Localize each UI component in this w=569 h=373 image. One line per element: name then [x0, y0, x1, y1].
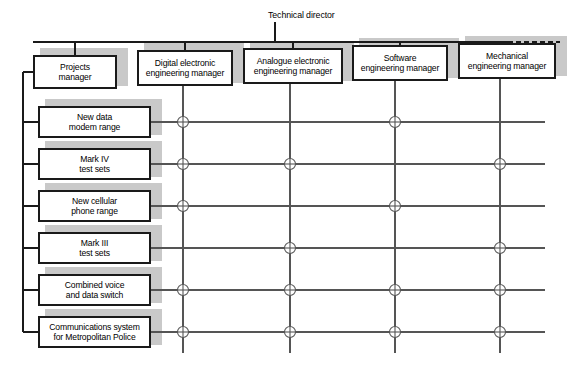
matrix-link-node[interactable] — [285, 327, 296, 338]
matrix-link-node[interactable] — [390, 201, 401, 212]
matrix-link-node[interactable] — [495, 327, 506, 338]
project-box-combined-voice-and-data-switch[interactable]: Combined voiceand data switch — [38, 274, 151, 306]
manager-box-label-line: engineering manager — [361, 63, 439, 73]
project-box-label-line: and data switch — [66, 290, 123, 300]
manager-box-label-line: Software — [384, 53, 417, 63]
manager-box-label-line: Digital electronic — [155, 58, 215, 68]
manager-box-label-line: manager — [59, 72, 92, 82]
project-box-label-line: New data — [77, 112, 112, 122]
project-box-communications-system-for-metropolitan-police[interactable]: Communications systemfor Metropolitan Po… — [38, 316, 151, 348]
project-box-mark-iii-test-sets[interactable]: Mark IIItest sets — [38, 232, 151, 264]
matrix-link-node[interactable] — [285, 285, 296, 296]
project-box-label-line: Communications system — [49, 322, 139, 332]
project-box-label-line: Mark III — [81, 238, 108, 248]
manager-box-label-line: Analogue electronic — [257, 56, 330, 66]
project-box-label-line: New cellular — [72, 196, 117, 206]
matrix-link-node[interactable] — [285, 159, 296, 170]
manager-box-label-line: engineering manager — [254, 66, 332, 76]
matrix-intersection-nodes — [178, 117, 506, 338]
manager-column-lines — [183, 79, 500, 353]
matrix-link-node[interactable] — [495, 243, 506, 254]
manager-box-label-line: Projects — [60, 62, 90, 72]
manager-box-projects-manager[interactable]: Projectsmanager — [33, 55, 117, 89]
projects-spine-lines — [23, 72, 38, 332]
matrix-link-node[interactable] — [285, 243, 296, 254]
project-row-lines — [151, 122, 545, 332]
project-box-label-line: modem range — [69, 122, 120, 132]
manager-box-label-line: Mechanical — [486, 51, 528, 61]
matrix-link-node[interactable] — [178, 201, 189, 212]
matrix-link-node[interactable] — [178, 327, 189, 338]
matrix-link-node[interactable] — [495, 159, 506, 170]
manager-box-digital-electronic-engineering-manager[interactable]: Digital electronicengineering manager — [137, 50, 233, 86]
project-box-label-line: test sets — [79, 248, 110, 258]
manager-box-label-line: engineering manager — [468, 61, 546, 71]
matrix-link-node[interactable] — [178, 285, 189, 296]
matrix-link-node[interactable] — [390, 327, 401, 338]
matrix-link-node[interactable] — [390, 117, 401, 128]
manager-box-software-engineering-manager[interactable]: Softwareengineering manager — [352, 45, 448, 81]
project-box-mark-iv-test-sets[interactable]: Mark IVtest sets — [38, 148, 151, 180]
project-box-label-line: test sets — [79, 164, 110, 174]
manager-box-analogue-electronic-engineering-manager[interactable]: Analogue electronicengineering manager — [243, 48, 343, 84]
matrix-link-node[interactable] — [178, 159, 189, 170]
project-box-label-line: phone range — [71, 206, 118, 216]
technical-director-label: Technical director — [268, 10, 335, 20]
project-box-label-line: Combined voice — [65, 280, 125, 290]
matrix-organisation-diagram: ProjectsmanagerDigital electronicenginee… — [0, 0, 569, 373]
project-box-new-cellular-phone-range[interactable]: New cellularphone range — [38, 190, 151, 222]
project-box-new-data-modem-range[interactable]: New datamodem range — [38, 106, 151, 138]
manager-box-mechanical-engineering-manager[interactable]: Mechanicalengineering manager — [458, 43, 556, 79]
matrix-link-node[interactable] — [495, 285, 506, 296]
project-box-label-line: Mark IV — [80, 154, 109, 164]
project-box-label-line: for Metropolitan Police — [53, 332, 135, 342]
matrix-link-node[interactable] — [390, 285, 401, 296]
matrix-link-node[interactable] — [178, 117, 189, 128]
manager-box-label-line: engineering manager — [146, 68, 224, 78]
